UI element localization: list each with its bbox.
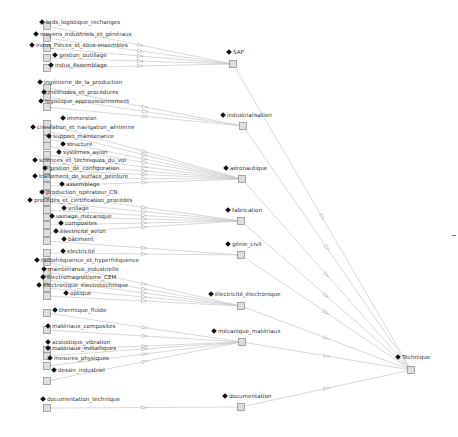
node-label-text: procédés_et_certification_procédés bbox=[34, 197, 132, 203]
leaf-label[interactable]: indus_Assemblage bbox=[49, 62, 107, 69]
diamond-marker-icon bbox=[45, 346, 51, 352]
leaf-label[interactable]: production_opérateur_CN bbox=[40, 189, 117, 196]
category-label[interactable]: SAP bbox=[227, 49, 244, 56]
arrowhead-icon bbox=[137, 54, 143, 57]
diamond-marker-icon bbox=[52, 53, 58, 59]
node-label-text: vrillage bbox=[68, 205, 89, 211]
node-label-text: mécanique_matériaux bbox=[218, 328, 280, 334]
leaf-node[interactable] bbox=[44, 363, 51, 370]
leaf-node[interactable] bbox=[44, 405, 51, 412]
leaf-label[interactable]: logistique_approvisionnement bbox=[39, 98, 129, 105]
leaf-label[interactable]: documentation_technique bbox=[41, 396, 120, 403]
diamond-marker-icon bbox=[48, 63, 54, 69]
leaf-label[interactable]: dessin_industriel bbox=[52, 367, 105, 374]
leaf-node[interactable] bbox=[44, 293, 51, 300]
category-label[interactable]: documentation bbox=[223, 393, 271, 400]
leaf-label[interactable]: support_maintenance bbox=[47, 133, 114, 140]
leaf-node[interactable] bbox=[44, 238, 51, 245]
diamond-marker-icon bbox=[226, 50, 232, 56]
arrowhead-icon bbox=[141, 226, 147, 229]
leaf-label[interactable]: systèmes_avion bbox=[57, 149, 108, 156]
category-node[interactable] bbox=[238, 218, 245, 225]
leaf-label[interactable]: matériaux_métalliques bbox=[46, 345, 116, 352]
node-label-text: sciences_et_techniques_du_vol bbox=[39, 157, 126, 163]
node-label-text: industrialisation bbox=[227, 112, 272, 118]
leaf-label[interactable]: radiofréquence_et_hyperfréquence bbox=[35, 257, 139, 264]
category-label[interactable]: génie_civil bbox=[226, 241, 261, 248]
leaf-label[interactable]: traitement_de_surface_peinture bbox=[33, 173, 128, 180]
leaf-label[interactable]: maintenance_industrielle bbox=[42, 266, 119, 273]
leaf-label[interactable]: méthodes_et_procédures bbox=[42, 89, 118, 96]
node-label-text: Technique bbox=[402, 354, 430, 360]
leaf-node[interactable] bbox=[44, 230, 51, 237]
node-label-text: mesures_physiques bbox=[54, 355, 109, 361]
category-node[interactable] bbox=[239, 176, 246, 183]
category-label[interactable]: fabrication bbox=[226, 207, 262, 214]
diamond-marker-icon bbox=[208, 292, 214, 298]
leaf-label[interactable]: matériaux_composites bbox=[46, 323, 115, 330]
diamond-marker-icon bbox=[40, 397, 46, 403]
arrowhead-icon bbox=[142, 169, 148, 172]
category-node[interactable] bbox=[240, 123, 247, 130]
leaf-label[interactable]: usinage_mécanique bbox=[50, 213, 112, 220]
leaf-label[interactable]: thermique_fluide bbox=[53, 307, 106, 314]
leaf-node[interactable] bbox=[44, 378, 51, 385]
node-label-text: fabrication bbox=[232, 207, 262, 213]
leaf-label[interactable]: gestion_outillage bbox=[53, 52, 107, 59]
leaf-label[interactable]: électromagnétisme_CEM bbox=[41, 274, 116, 281]
category-label[interactable]: mécanique_matériaux bbox=[212, 328, 280, 335]
leaf-node[interactable] bbox=[44, 310, 51, 317]
leaf-label[interactable]: gestion_de_configuration bbox=[43, 165, 119, 172]
diamond-marker-icon bbox=[47, 356, 53, 362]
diamond-marker-icon bbox=[32, 174, 38, 180]
node-label-text: méthodes_et_procédures bbox=[48, 89, 118, 95]
leaf-label[interactable]: circulation_et_navigation_aérienne bbox=[31, 124, 134, 131]
diamond-marker-icon bbox=[27, 198, 33, 204]
category-node[interactable] bbox=[238, 252, 245, 259]
arrowhead-icon bbox=[142, 326, 148, 329]
leaf-label[interactable]: moyens_industriels_et_généraux bbox=[34, 31, 132, 38]
node-label-text: matériaux_composites bbox=[52, 323, 115, 329]
leaf-label[interactable]: brds_logistique_rechanges bbox=[40, 19, 120, 26]
root-node[interactable] bbox=[408, 367, 415, 374]
diamond-marker-icon bbox=[32, 158, 38, 164]
arrowhead-icon bbox=[142, 161, 148, 164]
diamond-marker-icon bbox=[220, 113, 226, 119]
leaf-label[interactable]: mesures_physiques bbox=[48, 355, 109, 362]
leaf-node[interactable] bbox=[44, 250, 51, 257]
leaf-label[interactable]: assemblage bbox=[60, 181, 100, 188]
leaf-label[interactable]: vrillage bbox=[62, 205, 89, 212]
leaf-label[interactable]: composites bbox=[59, 220, 97, 227]
leaf-label[interactable]: électricité_avion bbox=[54, 228, 106, 235]
node-label-text: traitement_de_surface_peinture bbox=[39, 173, 128, 179]
node-label-text: électromagnétisme_CEM bbox=[47, 274, 116, 280]
leaf-node[interactable] bbox=[44, 55, 51, 62]
diamond-marker-icon bbox=[40, 275, 46, 281]
leaf-label[interactable]: ingénierie_de_la_production bbox=[38, 79, 122, 86]
leaf-node[interactable] bbox=[44, 143, 51, 150]
node-label-text: assemblage bbox=[66, 181, 100, 187]
category-label[interactable]: électricité_électronique bbox=[209, 291, 281, 298]
category-node[interactable] bbox=[238, 404, 245, 411]
category-node[interactable] bbox=[230, 61, 237, 68]
leaf-label[interactable]: indus_Pièces_et_sous-ensembles bbox=[30, 42, 128, 49]
node-label-text: logistique_approvisionnement bbox=[45, 98, 129, 104]
category-node[interactable] bbox=[238, 303, 245, 310]
category-label[interactable]: aéronautique bbox=[224, 165, 267, 172]
arrowhead-icon bbox=[137, 59, 143, 62]
leaf-label[interactable]: electricité bbox=[61, 248, 95, 255]
leaf-label[interactable]: sciences_et_techniques_du_vol bbox=[33, 157, 126, 164]
leaf-label[interactable]: procédés_et_certification_procédés bbox=[28, 197, 132, 204]
leaf-label[interactable]: bâtiment bbox=[62, 236, 93, 243]
leaf-node[interactable] bbox=[44, 222, 51, 229]
leaf-label[interactable]: électronique_électrotechnique bbox=[37, 282, 128, 289]
category-node[interactable] bbox=[239, 339, 246, 346]
root-label[interactable]: Technique bbox=[396, 354, 430, 361]
arrowhead-icon bbox=[142, 110, 148, 113]
diamond-marker-icon bbox=[30, 125, 36, 131]
node-label-text: brds_logistique_rechanges bbox=[46, 19, 120, 25]
leaf-label[interactable]: optique bbox=[64, 290, 91, 297]
leaf-label[interactable]: immersion bbox=[61, 115, 97, 122]
category-label[interactable]: industrialisation bbox=[221, 112, 272, 119]
leaf-label[interactable]: structure bbox=[61, 141, 92, 148]
